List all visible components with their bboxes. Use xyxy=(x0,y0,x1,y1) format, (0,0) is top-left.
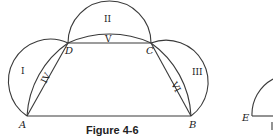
region-label-vi: VI xyxy=(169,79,183,94)
arc-region-i xyxy=(8,39,68,116)
point-label-e: E xyxy=(241,112,250,123)
point-label-d: D xyxy=(64,45,73,56)
figure-4-6-diagram: A B C D E I II III IV V VI Figure 4-6 xyxy=(0,0,273,138)
arc-e-partial xyxy=(252,79,273,116)
region-label-v: V xyxy=(104,34,112,44)
point-label-b: B xyxy=(188,119,196,130)
arc-region-iii xyxy=(151,40,208,116)
point-label-c: C xyxy=(146,45,154,56)
region-label-iii: III xyxy=(192,67,203,77)
point-label-a: A xyxy=(18,119,26,130)
region-label-ii: II xyxy=(104,14,112,24)
figure-caption: Figure 4-6 xyxy=(86,124,139,136)
segment-cb xyxy=(151,43,191,116)
region-label-i: I xyxy=(21,66,25,76)
